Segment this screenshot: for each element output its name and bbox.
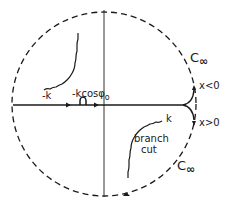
label-pole: -kcosφo	[72, 89, 110, 102]
label-x-negative: x<0	[199, 81, 220, 91]
branch-cut-upper	[44, 33, 78, 90]
c-inf-upper-text: C	[190, 50, 199, 65]
label-plus-k: k	[166, 114, 172, 124]
label-c-infinity-upper: C∞	[190, 51, 207, 67]
c-inf-lower-sub: ∞	[186, 163, 194, 176]
label-pole-text: -kcosφ	[72, 88, 105, 99]
arrow-up-icon	[192, 85, 196, 90]
label-pole-sub: o	[105, 93, 110, 102]
contour-cusp-lower	[183, 105, 194, 120]
label-cut: cut	[141, 145, 157, 155]
c-inf-upper-sub: ∞	[199, 55, 207, 68]
label-minus-k: -k	[42, 91, 51, 101]
c-inf-lower-text: C	[177, 158, 186, 173]
label-branch: branch	[134, 134, 169, 144]
contour-diagram: -k -kcosφo k branch cut C∞ C∞ x<0 x>0	[0, 0, 233, 206]
label-x-positive: x>0	[199, 118, 220, 128]
arrow-down-icon	[192, 121, 196, 126]
diagram-canvas	[0, 0, 233, 206]
arrow-right-icon	[94, 103, 99, 108]
arrow-right-icon	[66, 103, 71, 108]
contour-cusp-upper	[183, 90, 194, 105]
label-c-infinity-lower: C∞	[177, 159, 194, 175]
